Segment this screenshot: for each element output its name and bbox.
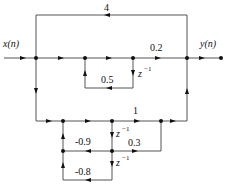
node bbox=[61, 119, 65, 123]
output-node bbox=[219, 56, 223, 60]
arrow-up-icon bbox=[61, 162, 65, 168]
arrow-right-icon bbox=[58, 56, 64, 60]
top-feedforward-path bbox=[36, 15, 187, 58]
arrow-down-icon bbox=[110, 132, 114, 138]
svg-text:−1: −1 bbox=[144, 65, 152, 73]
arrow-right-icon bbox=[85, 119, 91, 123]
arrow-down-icon bbox=[131, 70, 135, 76]
gain-top-feedforward: 4 bbox=[104, 2, 109, 13]
input-label: x(n) bbox=[2, 38, 20, 50]
gain-lower-loop-2: -0.8 bbox=[75, 166, 91, 177]
arrow-left-icon bbox=[85, 149, 91, 153]
svg-text:−1: −1 bbox=[122, 125, 130, 133]
arrow-down-icon bbox=[34, 88, 38, 94]
delay-label-1: z −1 bbox=[137, 65, 152, 79]
arrow-right-icon bbox=[155, 56, 161, 60]
node bbox=[185, 56, 189, 60]
gain-lower-path: 1 bbox=[133, 105, 138, 116]
arrow-right-icon bbox=[134, 119, 140, 123]
arrow-right-icon bbox=[199, 56, 205, 60]
node bbox=[131, 56, 135, 60]
delay-label-3: z −1 bbox=[115, 154, 130, 168]
arrow-right-icon bbox=[106, 56, 112, 60]
svg-text:−1: −1 bbox=[122, 154, 130, 162]
gain-main-path: 0.2 bbox=[150, 42, 163, 53]
arrow-right-icon bbox=[132, 149, 138, 153]
arrow-left-icon bbox=[106, 86, 112, 90]
svg-text:z: z bbox=[137, 68, 142, 79]
arrow-right-icon bbox=[20, 56, 26, 60]
node bbox=[61, 149, 65, 153]
node bbox=[110, 119, 114, 123]
node bbox=[34, 56, 38, 60]
node bbox=[110, 149, 114, 153]
diagram-canvas: x(n) y(n) 4 0.2 0.5 1 -0.9 0.3 -0.8 z −1… bbox=[0, 0, 227, 192]
arrow-up-icon bbox=[61, 133, 65, 139]
svg-text:z: z bbox=[115, 157, 120, 168]
arrow-down-icon bbox=[110, 161, 114, 167]
arrow-up-icon bbox=[185, 88, 189, 94]
arrow-right-icon bbox=[46, 119, 52, 123]
signal-flow-diagram: x(n) y(n) 4 0.2 0.5 1 -0.9 0.3 -0.8 z −1… bbox=[0, 0, 227, 192]
arrow-left-icon bbox=[104, 13, 110, 17]
gain-lower-loop-1: -0.9 bbox=[75, 136, 91, 147]
arrow-right-icon bbox=[170, 119, 176, 123]
gain-lower-branch: 0.3 bbox=[128, 137, 141, 148]
arrow-up-icon bbox=[83, 70, 87, 76]
node bbox=[83, 56, 87, 60]
output-label: y(n) bbox=[199, 38, 217, 50]
svg-text:z: z bbox=[115, 128, 120, 139]
gain-first-loop: 0.5 bbox=[101, 74, 114, 85]
node bbox=[159, 119, 163, 123]
arrow-left-icon bbox=[85, 178, 91, 182]
